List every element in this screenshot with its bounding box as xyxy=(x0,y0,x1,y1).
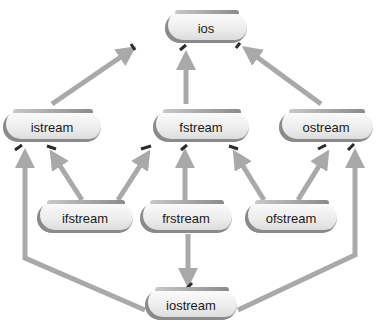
node-bevel xyxy=(163,109,241,113)
node-ostream: ostream xyxy=(279,112,373,142)
edge-ostream-ios xyxy=(250,52,321,104)
node-bevel xyxy=(175,10,239,14)
tip-mark xyxy=(181,145,187,150)
node-bevel xyxy=(155,287,229,291)
node-ios: ios xyxy=(165,13,247,43)
edge-istream-ios xyxy=(52,52,128,104)
tip-mark xyxy=(236,43,240,48)
node-ofstream: ofstream xyxy=(245,203,337,233)
node-label: ofstream xyxy=(266,211,317,226)
node-label: istream xyxy=(31,120,74,135)
node-label: ostream xyxy=(303,120,350,135)
tip-mark xyxy=(318,145,326,149)
node-ifstream: ifstream xyxy=(37,203,133,233)
edge-iostream-ostream xyxy=(238,158,355,310)
node-label: iostream xyxy=(166,298,216,313)
node-frstream: frstream xyxy=(140,203,232,233)
tip-mark xyxy=(15,145,22,150)
node-label: ios xyxy=(198,21,215,36)
edge-iostream-istream xyxy=(25,158,145,310)
edge-ifstream-fstream xyxy=(118,158,145,200)
tip-mark xyxy=(141,146,151,149)
edges-layer xyxy=(0,0,385,326)
node-fstream: fstream xyxy=(153,112,249,142)
tip-mark xyxy=(47,146,56,149)
node-bevel xyxy=(289,109,365,113)
tip-mark xyxy=(229,146,238,149)
node-bevel xyxy=(47,200,125,204)
edge-ofstream-fstream xyxy=(238,158,264,200)
node-istream: istream xyxy=(3,112,101,142)
tip-mark xyxy=(131,44,135,50)
tip-mark xyxy=(180,45,186,50)
node-label: fstream xyxy=(179,120,222,135)
tip-mark xyxy=(348,144,354,150)
node-iostream: iostream xyxy=(145,290,237,320)
node-bevel xyxy=(13,109,93,113)
edge-ifstream-istream xyxy=(55,158,82,200)
node-bevel xyxy=(150,200,224,204)
node-label: ifstream xyxy=(62,211,108,226)
node-label: frstream xyxy=(162,211,210,226)
node-bevel xyxy=(255,200,329,204)
edge-ofstream-ostream xyxy=(298,158,324,200)
